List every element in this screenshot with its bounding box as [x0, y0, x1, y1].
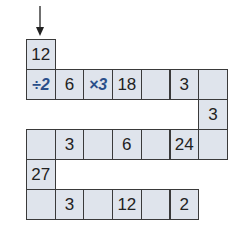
- blank-cell[interactable]: [26, 189, 56, 220]
- blank-cell[interactable]: [26, 129, 56, 160]
- number-cell: 3: [198, 99, 228, 130]
- operator-cell: ×3: [83, 69, 113, 100]
- blank-cell[interactable]: [198, 129, 228, 160]
- blank-cell[interactable]: [141, 69, 171, 100]
- number-cell: 18: [112, 69, 142, 100]
- blank-cell[interactable]: [141, 189, 171, 220]
- blank-cell[interactable]: [141, 129, 171, 160]
- number-cell: 3: [170, 69, 200, 100]
- operator-cell: ÷2: [26, 69, 56, 100]
- number-cell: 12: [26, 39, 56, 70]
- blank-cell[interactable]: [83, 189, 113, 220]
- number-cell: 3: [55, 129, 85, 160]
- start-arrow-down-icon: [36, 6, 44, 36]
- blank-cell[interactable]: [198, 69, 228, 100]
- number-cell: 2: [170, 189, 200, 220]
- number-cell: 6: [112, 129, 142, 160]
- number-cell: 6: [55, 69, 85, 100]
- blank-cell[interactable]: [83, 129, 113, 160]
- number-cell: 3: [55, 189, 85, 220]
- number-cell: 12: [112, 189, 142, 220]
- number-cell: 27: [26, 159, 56, 190]
- number-cell: 24: [170, 129, 200, 160]
